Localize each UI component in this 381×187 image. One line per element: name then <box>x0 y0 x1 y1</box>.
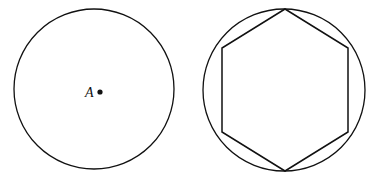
figure-canvas: A <box>0 0 381 187</box>
circle-a <box>14 9 174 169</box>
panel-plain-circle: A <box>14 9 174 169</box>
center-point-dot-a <box>97 89 102 94</box>
point-label-a: A <box>84 85 94 100</box>
inscribed-regular-hexagon <box>222 9 348 171</box>
panel-circle-with-hexagon <box>203 9 365 171</box>
circumscribed-circle <box>203 9 365 171</box>
geometry-figure-svg: A <box>0 0 381 187</box>
